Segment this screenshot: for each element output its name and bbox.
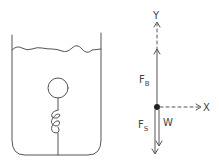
ball — [48, 78, 68, 98]
y-axis-label: Y — [152, 10, 160, 21]
beaker — [12, 33, 101, 155]
origin-point — [154, 104, 160, 110]
ball-spring-assembly — [48, 78, 68, 155]
buoyant-force-label: FB — [139, 74, 150, 88]
diagram-canvas: Y FB X FS W — [0, 0, 219, 163]
spring-coil — [51, 110, 60, 133]
weight-label: W — [163, 117, 173, 128]
free-body-diagram: Y FB X FS W — [138, 10, 210, 154]
x-axis-label: X — [203, 102, 210, 113]
beaker-outline — [12, 33, 101, 155]
water-surface — [12, 46, 101, 53]
spring-force-label: FS — [138, 119, 149, 133]
